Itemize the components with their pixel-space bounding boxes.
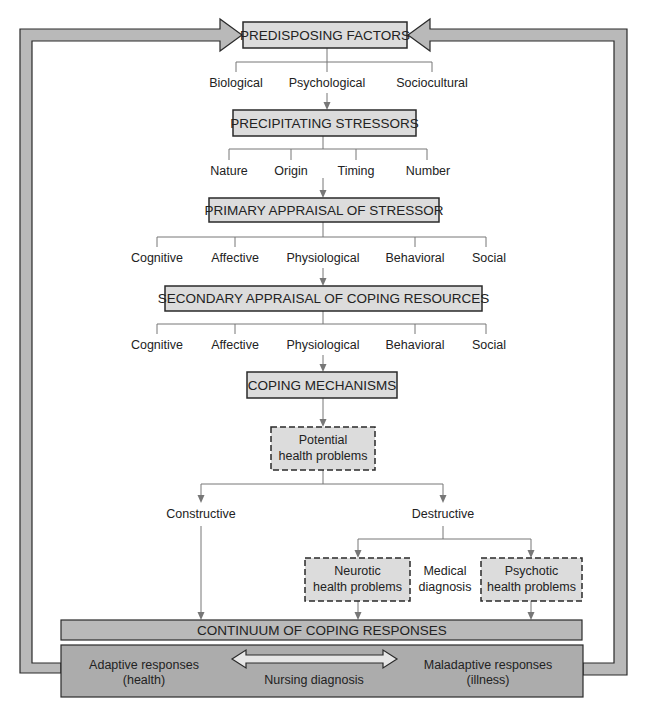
node-label: COPING MECHANISMS	[248, 378, 397, 393]
node-precipitating-stressors: PRECIPITATING STRESSORS	[230, 110, 419, 136]
node-label-line2: health problems	[279, 449, 368, 463]
node-label: PREDISPOSING FACTORS	[240, 28, 410, 43]
branch-social: Social	[472, 251, 506, 265]
branch-sociocultural: Sociocultural	[396, 76, 468, 90]
branch-biological: Biological	[209, 76, 263, 90]
branch-affective: Affective	[211, 251, 259, 265]
branch-destructive: Destructive	[412, 507, 475, 521]
nursing-diagnosis-label: Nursing diagnosis	[264, 673, 363, 687]
branch-psychological: Psychological	[289, 76, 365, 90]
node-label: CONTINUUM OF COPING RESPONSES	[197, 623, 447, 638]
precipitating-branches: Nature Origin Timing Number	[210, 164, 450, 178]
branch-timing: Timing	[337, 164, 374, 178]
outcome-branches: Constructive Destructive	[166, 507, 474, 521]
node-label-line2: health problems	[487, 580, 576, 594]
node-predisposing-factors: PREDISPOSING FACTORS	[240, 22, 410, 48]
secondary-appraisal-branches: Cognitive Affective Physiological Behavi…	[131, 338, 506, 352]
label-line2: diagnosis	[419, 580, 472, 594]
branch-affective: Affective	[211, 338, 259, 352]
medical-diagnosis-label: Medical diagnosis	[419, 564, 472, 594]
node-secondary-appraisal: SECONDARY APPRAISAL OF COPING RESOURCES	[158, 286, 489, 311]
adaptive-responses-label: Adaptive responses	[89, 658, 199, 672]
branch-behavioral: Behavioral	[385, 251, 444, 265]
node-coping-mechanisms: COPING MECHANISMS	[247, 372, 397, 398]
node-label-line1: Potential	[299, 433, 348, 447]
stress-adaptation-model-diagram: PREDISPOSING FACTORS PRECIPITATING STRES…	[0, 0, 645, 715]
node-neurotic-health-problems: Neurotic health problems	[305, 558, 410, 601]
primary-appraisal-branches: Cognitive Affective Physiological Behavi…	[131, 251, 506, 265]
branch-constructive: Constructive	[166, 507, 236, 521]
coping-responses-spectrum-box: Adaptive responses (health) Maladaptive …	[61, 645, 583, 697]
predisposing-branches: Biological Psychological Sociocultural	[209, 76, 468, 90]
node-label-line1: Psychotic	[505, 564, 559, 578]
label-line1: Medical	[423, 564, 466, 578]
branch-behavioral: Behavioral	[385, 338, 444, 352]
maladaptive-responses-label: Maladaptive responses	[424, 658, 553, 672]
node-label: PRECIPITATING STRESSORS	[230, 116, 419, 131]
branch-cognitive: Cognitive	[131, 338, 183, 352]
node-label: PRIMARY APPRAISAL OF STRESSOR	[204, 203, 443, 218]
branch-cognitive: Cognitive	[131, 251, 183, 265]
branch-physiological: Physiological	[287, 251, 360, 265]
branch-nature: Nature	[210, 164, 248, 178]
node-primary-appraisal: PRIMARY APPRAISAL OF STRESSOR	[204, 198, 443, 222]
branch-origin: Origin	[274, 164, 307, 178]
connector-arrowheads	[198, 102, 535, 620]
node-label-line2: health problems	[313, 580, 402, 594]
node-continuum-of-coping-responses: CONTINUUM OF COPING RESPONSES	[61, 620, 582, 640]
node-psychotic-health-problems: Psychotic health problems	[481, 558, 582, 601]
branch-number: Number	[406, 164, 450, 178]
node-label: SECONDARY APPRAISAL OF COPING RESOURCES	[158, 291, 489, 306]
node-label-line1: Neurotic	[334, 564, 381, 578]
branch-social: Social	[472, 338, 506, 352]
maladaptive-illness-label: (illness)	[466, 673, 509, 687]
branch-physiological: Physiological	[287, 338, 360, 352]
node-potential-health-problems: Potential health problems	[271, 427, 375, 470]
adaptive-health-label: (health)	[123, 673, 165, 687]
